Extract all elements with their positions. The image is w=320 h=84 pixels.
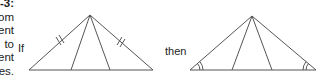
right-triangle-with-equal-base-angles — [190, 16, 316, 70]
triangle-diagram — [0, 0, 320, 84]
triangle-sides — [190, 16, 316, 70]
triangle-sides — [29, 15, 153, 70]
left-isosceles-triangle — [29, 15, 153, 70]
